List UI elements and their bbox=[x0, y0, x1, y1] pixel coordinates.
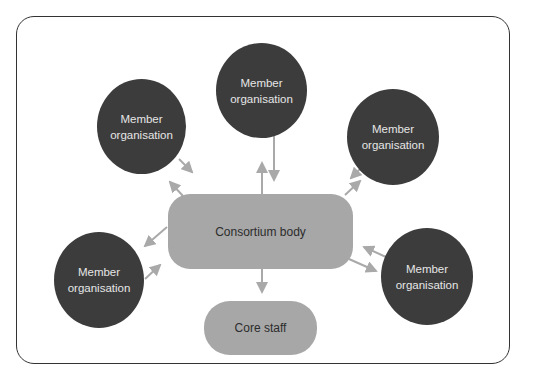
member-organisation-bottom-right: Member organisation bbox=[381, 228, 473, 325]
arrow-consortium-to-topleft bbox=[170, 182, 183, 196]
member-organisation-top: Member organisation bbox=[216, 43, 307, 138]
node-label: Core staff bbox=[235, 321, 287, 335]
member-organisation-top-left: Member organisation bbox=[97, 79, 186, 174]
node-label: Member organisation bbox=[396, 261, 459, 293]
node-label: Member organisation bbox=[68, 264, 131, 296]
node-label: Member organisation bbox=[110, 111, 173, 143]
arrow-consortium-to-topright bbox=[345, 181, 360, 195]
core-staff: Core staff bbox=[204, 301, 317, 355]
consortium-body: Consortium body bbox=[168, 194, 353, 269]
arrow-consortium-to-bottomright bbox=[349, 259, 376, 271]
node-label: Member organisation bbox=[362, 121, 425, 153]
arrow-consortium-to-bottomleft bbox=[145, 227, 167, 246]
arrow-topleft-to-consortium bbox=[179, 159, 192, 172]
member-organisation-top-right: Member organisation bbox=[347, 89, 439, 185]
node-label: Consortium body bbox=[215, 225, 306, 239]
node-label: Member organisation bbox=[230, 75, 293, 107]
arrow-bottomright-to-consortium bbox=[364, 247, 386, 257]
arrow-bottomleft-to-consortium bbox=[145, 265, 160, 279]
member-organisation-bottom-left: Member organisation bbox=[54, 232, 144, 328]
